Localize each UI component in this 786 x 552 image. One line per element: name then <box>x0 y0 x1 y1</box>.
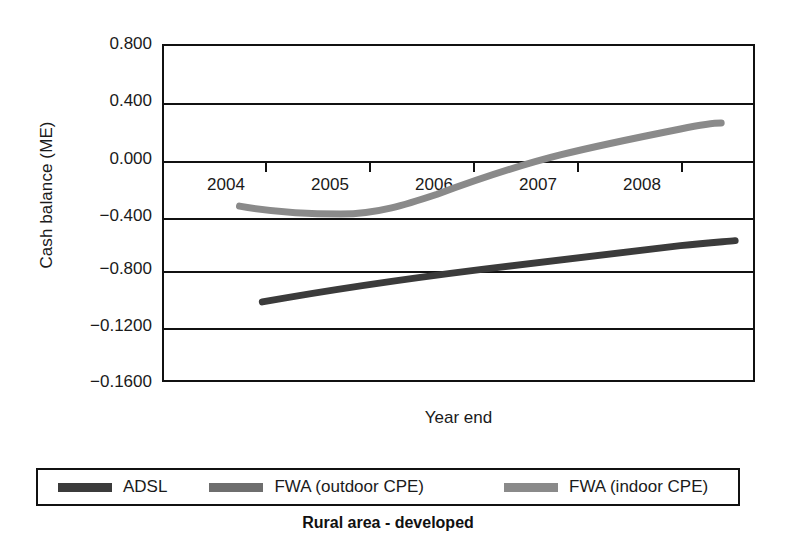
legend-label-fwa-indoor-cpe: FWA (indoor CPE) <box>569 477 708 497</box>
figure-caption: Rural area - developed <box>36 514 740 532</box>
legend-item-adsl[interactable]: ADSL <box>58 477 167 497</box>
legend-item-fwa-outdoor-cpe[interactable]: FWA (outdoor CPE) <box>209 477 424 497</box>
y-tick-label: −0.800 <box>52 259 152 279</box>
legend-label-fwa-outdoor-cpe: FWA (outdoor CPE) <box>274 477 424 497</box>
chart-legend: ADSL FWA (outdoor CPE) FWA (indoor CPE) <box>36 468 740 506</box>
y-tick-label: −0.1200 <box>52 316 152 336</box>
legend-item-fwa-indoor-cpe[interactable]: FWA (indoor CPE) <box>504 477 708 497</box>
legend-swatch-icon-adsl <box>58 483 112 492</box>
y-tick-label: −0.400 <box>52 206 152 226</box>
x-axis-title: Year end <box>162 408 755 428</box>
legend-swatch-icon-fwa-outdoor-cpe <box>209 483 263 492</box>
chart-figure: Cash balance (ME) 0.800 0.400 0.000 −0.4… <box>0 0 786 552</box>
y-tick-label: 0.000 <box>52 149 152 169</box>
y-tick-label: 0.800 <box>52 34 152 54</box>
legend-swatch-icon-fwa-indoor-cpe <box>504 483 558 492</box>
y-tick-label: 0.400 <box>52 91 152 111</box>
series-plot <box>164 46 753 380</box>
plot-area: 2004 2005 2006 2007 2008 <box>162 44 755 382</box>
legend-label-adsl: ADSL <box>123 477 167 497</box>
series-line-adsl <box>262 241 735 302</box>
series-line-fwa-indoor-cpe <box>239 123 721 214</box>
y-tick-label: −0.1600 <box>52 372 152 392</box>
